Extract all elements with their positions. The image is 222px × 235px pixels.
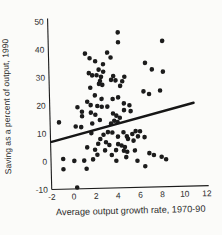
data-point xyxy=(143,164,148,169)
data-point xyxy=(99,97,104,102)
data-point xyxy=(118,84,123,89)
data-point xyxy=(98,118,103,123)
data-point xyxy=(149,67,154,72)
data-point xyxy=(116,95,121,100)
data-point xyxy=(93,147,98,152)
data-point xyxy=(136,134,141,139)
data-point xyxy=(61,167,66,172)
data-point xyxy=(164,157,169,162)
data-point xyxy=(110,97,115,102)
data-point xyxy=(115,30,120,35)
data-point xyxy=(89,110,94,115)
data-point xyxy=(87,56,92,61)
data-point xyxy=(122,101,127,106)
y-tick-label: 40 xyxy=(35,45,45,55)
x-tick-label: 12 xyxy=(202,188,212,198)
data-point xyxy=(124,155,129,160)
data-point xyxy=(152,153,157,158)
data-point xyxy=(127,103,132,108)
data-point xyxy=(85,99,90,104)
data-point xyxy=(72,159,77,164)
data-point xyxy=(113,78,118,83)
y-tick-label: -10 xyxy=(36,185,49,195)
x-tick-label: 8 xyxy=(160,189,165,199)
data-point xyxy=(95,152,100,157)
data-point xyxy=(108,55,113,60)
scatter-chart-svg: -1001020304050-2024681012Saving as a per… xyxy=(0,0,222,235)
data-point xyxy=(109,78,114,83)
data-point xyxy=(105,104,110,109)
data-point xyxy=(80,109,85,114)
data-point xyxy=(94,73,99,78)
data-point xyxy=(106,130,111,135)
data-point xyxy=(122,74,127,79)
data-point xyxy=(143,60,148,65)
data-point xyxy=(90,121,95,126)
data-point xyxy=(159,154,164,159)
data-point xyxy=(111,74,116,79)
data-point xyxy=(110,130,115,135)
x-tick-label: 10 xyxy=(180,189,190,199)
data-point xyxy=(88,85,93,90)
data-point xyxy=(103,148,108,153)
data-point xyxy=(73,124,78,129)
data-point xyxy=(91,157,96,162)
data-point xyxy=(83,51,88,56)
y-tick-label: 30 xyxy=(36,73,46,83)
data-point xyxy=(82,158,87,163)
data-point xyxy=(109,153,114,158)
data-point xyxy=(98,137,103,142)
data-point xyxy=(105,50,110,55)
data-point xyxy=(99,104,104,109)
x-tick-label: 4 xyxy=(116,190,121,200)
data-point xyxy=(116,134,121,139)
data-point xyxy=(79,125,84,130)
x-tick-label: -2 xyxy=(48,192,56,202)
y-tick-label: 0 xyxy=(42,157,47,167)
data-point xyxy=(114,158,119,163)
data-point xyxy=(101,62,106,67)
x-tick-label: 6 xyxy=(138,190,143,200)
data-point xyxy=(99,74,104,79)
data-point xyxy=(158,88,163,93)
scatter-figure: -1001020304050-2024681012Saving as a per… xyxy=(0,0,222,235)
data-point xyxy=(93,59,98,64)
data-point xyxy=(142,135,147,140)
data-point xyxy=(147,92,152,97)
data-point xyxy=(114,148,119,153)
data-point xyxy=(80,114,85,119)
data-point xyxy=(147,151,152,156)
data-point xyxy=(135,158,140,163)
scanned-page-tilt: -1001020304050-2024681012Saving as a per… xyxy=(0,0,222,235)
data-point xyxy=(133,148,138,153)
data-point xyxy=(95,104,100,109)
y-tick-label: 20 xyxy=(36,101,46,111)
x-tick-label: 0 xyxy=(72,191,77,201)
data-point xyxy=(92,93,97,98)
data-point xyxy=(96,141,101,146)
data-point xyxy=(160,38,165,43)
y-tick-label: 50 xyxy=(34,17,44,27)
data-point xyxy=(101,132,106,137)
y-axis-line xyxy=(48,19,52,190)
y-axis-title: Saving as a percent of output, 1990 xyxy=(0,38,13,174)
data-point xyxy=(161,69,166,74)
data-point xyxy=(88,103,93,108)
x-axis-title: Average output growth rate, 1970-90 xyxy=(56,204,206,218)
y-tick-label: 10 xyxy=(37,129,47,139)
data-point xyxy=(121,130,126,135)
data-point xyxy=(138,129,143,134)
data-point xyxy=(101,69,106,74)
data-point xyxy=(122,108,127,113)
data-point xyxy=(61,157,66,162)
data-point xyxy=(75,105,80,110)
data-point xyxy=(84,166,89,171)
data-point xyxy=(116,40,121,45)
data-point xyxy=(131,138,136,143)
x-tick-label: 2 xyxy=(94,191,99,201)
data-point xyxy=(93,112,98,117)
data-point xyxy=(96,67,101,72)
data-point xyxy=(128,109,133,114)
data-point xyxy=(120,79,125,84)
data-point xyxy=(85,145,90,150)
